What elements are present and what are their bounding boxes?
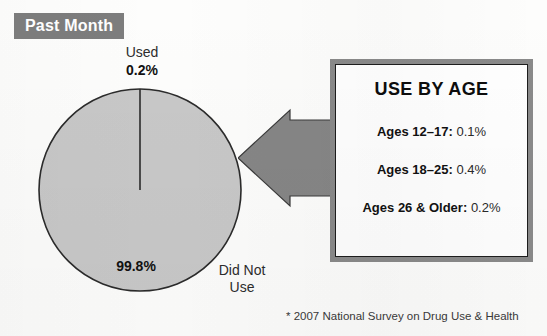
source-footnote: * 2007 National Survey on Drug Use & Hea… <box>286 310 519 322</box>
figure-root: Past Month Used 0.2% 99.8% Did Not Use U… <box>0 0 547 336</box>
callout-title: USE BY AGE <box>374 79 488 100</box>
past-month-banner: Past Month <box>14 13 124 39</box>
age-row-26-older-value: 0.2% <box>471 200 501 215</box>
pie-label-used-value: 0.2% <box>96 61 188 79</box>
pie-label-used-name: Used <box>96 44 188 61</box>
pie-label-did-not-use-line1: Did Not <box>196 262 288 279</box>
pie-label-did-not-use: Did Not Use <box>196 262 288 296</box>
age-row-26-older: Ages 26 & Older: 0.2% <box>362 200 500 215</box>
age-row-18-25: Ages 18–25: 0.4% <box>377 162 486 177</box>
age-row-12-17-value: 0.1% <box>456 124 486 139</box>
age-row-18-25-value: 0.4% <box>456 162 486 177</box>
pie-label-did-not-use-line2: Use <box>196 279 288 296</box>
age-row-18-25-label: Ages 18–25: <box>377 162 453 177</box>
age-row-12-17: Ages 12–17: 0.1% <box>377 124 486 139</box>
age-row-12-17-label: Ages 12–17: <box>377 124 453 139</box>
pie-label-did-not-use-value: 99.8% <box>96 258 176 274</box>
use-by-age-callout: USE BY AGE Ages 12–17: 0.1% Ages 18–25: … <box>330 59 533 262</box>
banner-label: Past Month <box>25 17 113 34</box>
arrow-left-icon <box>238 108 342 208</box>
age-row-26-older-label: Ages 26 & Older: <box>362 200 467 215</box>
pie-label-used: Used 0.2% <box>96 44 188 79</box>
arrow-left-shape <box>238 110 342 206</box>
use-by-age-callout-inner: USE BY AGE Ages 12–17: 0.1% Ages 18–25: … <box>335 64 528 257</box>
